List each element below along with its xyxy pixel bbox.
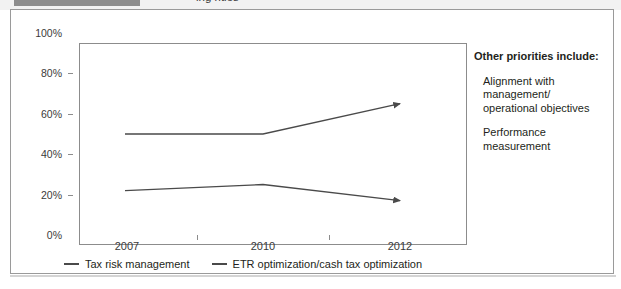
y-tick-label: 80% bbox=[18, 67, 62, 79]
chart-legend: Tax risk management ETR optimization/cas… bbox=[64, 258, 422, 270]
y-axis-tick bbox=[68, 195, 73, 196]
page-title-fragment: ing rities bbox=[196, 0, 496, 5]
other-priorities-panel: Other priorities include: Alignment with… bbox=[474, 50, 606, 164]
plot-frame bbox=[79, 43, 467, 245]
legend-item-tax-risk-management: Tax risk management bbox=[64, 258, 190, 270]
other-priorities-item: Alignment with management/ operational o… bbox=[483, 75, 606, 116]
legend-line-icon bbox=[64, 263, 79, 265]
y-axis-tick bbox=[68, 154, 73, 155]
x-tick-label: 2007 bbox=[92, 240, 162, 252]
card-shadow bbox=[10, 275, 616, 277]
y-tick-label: 100% bbox=[18, 27, 62, 39]
x-axis-tick bbox=[197, 235, 198, 240]
legend-line-icon bbox=[212, 263, 227, 265]
legend-label: Tax risk management bbox=[85, 258, 190, 270]
y-axis-tick bbox=[68, 114, 73, 115]
y-tick-label: 20% bbox=[18, 189, 62, 201]
y-tick-label: 40% bbox=[18, 148, 62, 160]
other-priorities-item: Performance measurement bbox=[483, 126, 606, 153]
x-tick-label: 2012 bbox=[365, 240, 435, 252]
legend-label: ETR optimization/cash tax optimization bbox=[233, 258, 423, 270]
other-priorities-heading: Other priorities include: bbox=[474, 50, 606, 64]
y-tick-label: 0% bbox=[18, 229, 62, 241]
y-tick-label: 60% bbox=[18, 108, 62, 120]
x-tick-label: 2010 bbox=[228, 240, 298, 252]
x-axis-tick bbox=[329, 235, 330, 240]
y-axis-tick bbox=[68, 73, 73, 74]
legend-item-etr-optimization: ETR optimization/cash tax optimization bbox=[212, 258, 423, 270]
header-rule-block bbox=[14, 0, 140, 6]
